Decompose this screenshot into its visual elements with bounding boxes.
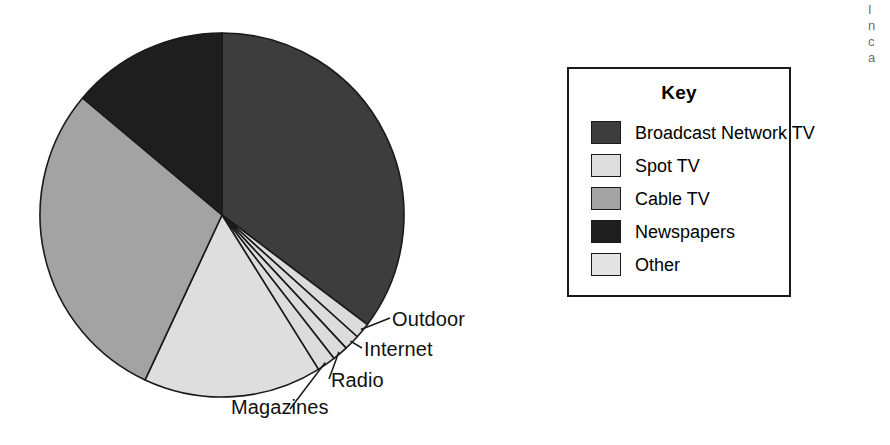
legend-key-box: Key Broadcast Network TVSpot TVCable TVN… [567, 67, 791, 297]
legend-swatch-spot-tv [591, 154, 621, 177]
legend-swatch-other [591, 253, 621, 276]
pie-chart-svg [0, 0, 520, 445]
margin-text-line-4: a [868, 50, 890, 65]
legend-entry[interactable]: Spot TV [591, 149, 789, 182]
margin-text-line-2: n [868, 18, 890, 33]
legend-swatch-newspapers [591, 220, 621, 243]
pie-slice-group [40, 33, 404, 397]
slice-label-outdoor: Outdoor [392, 308, 465, 330]
legend-label: Newspapers [635, 222, 735, 242]
legend-label: Broadcast Network TV [635, 123, 815, 143]
legend-entry[interactable]: Cable TV [591, 182, 789, 215]
legend-entry[interactable]: Broadcast Network TV [591, 116, 789, 149]
legend-swatch-cable-tv [591, 187, 621, 210]
chart-canvas: Outdoor Internet Radio Magazines Key Bro… [0, 0, 890, 445]
slice-label-internet: Internet [364, 338, 433, 360]
legend-entry-list: Broadcast Network TVSpot TVCable TVNewsp… [569, 116, 789, 281]
margin-text-line-1: I [868, 2, 890, 17]
margin-text-line-3: c [868, 34, 890, 49]
legend-label: Cable TV [635, 189, 710, 209]
legend-swatch-broadcast-network-tv [591, 121, 621, 144]
legend-title: Key [569, 82, 789, 104]
legend-entry[interactable]: Other [591, 248, 789, 281]
pie-chart: Outdoor Internet Radio Magazines [0, 0, 520, 445]
legend-entry[interactable]: Newspapers [591, 215, 789, 248]
slice-label-magazines: Magazines [231, 396, 329, 418]
legend-label: Other [635, 255, 680, 275]
slice-label-radio: Radio [331, 369, 384, 391]
leader-line-internet [350, 341, 362, 348]
legend-label: Spot TV [635, 156, 700, 176]
